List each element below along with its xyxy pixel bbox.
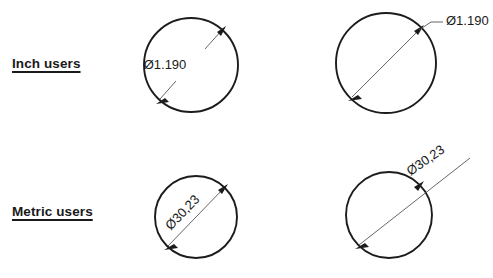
figure-metric-outside: Ø30,23: [346, 142, 470, 258]
figure-metric-inside: Ø30,23: [155, 176, 237, 258]
figure-inch-outside: Ø1.190: [336, 13, 489, 113]
dimension-text: Ø1.190: [144, 57, 187, 72]
dimension-text: Ø1.190: [446, 13, 489, 28]
drawing-canvas: Inch users Metric users Ø1.190 Ø1.190: [0, 0, 493, 278]
dimension-text: Ø30,23: [404, 142, 448, 179]
dimension-line-lower: [160, 81, 176, 99]
figure-inch-inside: Ø1.190: [144, 18, 238, 112]
dimension-text: Ø30,23: [162, 192, 202, 233]
dimension-line: [352, 29, 420, 97]
technical-drawing: Ø1.190 Ø1.190 Ø30,23 Ø: [0, 0, 493, 278]
